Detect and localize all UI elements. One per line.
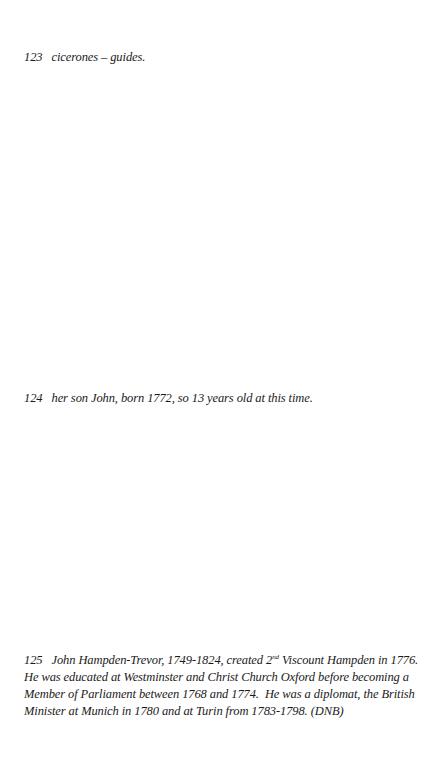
footnote-text: her son John, born 1772, so 13 years old… [51,391,312,405]
footnote-124: 124 her son John, born 1772, so 13 years… [24,390,313,407]
footnote-text: Viscount Hampden in 1776. [279,653,418,667]
footnote-text: cicerones – guides. [51,50,145,64]
footnote-number: 124 [24,391,42,405]
footnote-line-4: Minister at Munich in 1780 and at Turin … [24,703,434,720]
footnote-number: 123 [24,50,42,64]
footnote-line-3: Member of Parliament between 1768 and 17… [24,686,434,703]
footnote-123: 123 cicerones – guides. [24,49,145,66]
footnote-125: 125 John Hampden-Trevor, 1749-1824, crea… [24,652,434,720]
footnote-line-2: He was educated at Westminster and Chris… [24,669,434,686]
footnote-number: 125 [24,653,42,667]
footnote-line-1: 125 John Hampden-Trevor, 1749-1824, crea… [24,652,434,669]
ordinal-superscript: nd [272,653,279,661]
footnote-text: John Hampden-Trevor, 1749-1824, created … [51,653,272,667]
